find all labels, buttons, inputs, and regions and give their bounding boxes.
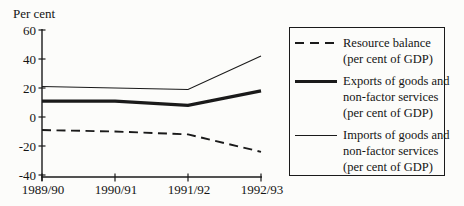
- thin-line-sample-icon: [295, 135, 337, 136]
- series-line-dashed: [42, 130, 261, 152]
- legend-label-resource-balance: Resource balance (per cent of GDP): [343, 35, 433, 67]
- legend: Resource balance (per cent of GDP) Expor…: [289, 27, 445, 176]
- legend-text-line: non-factor services: [343, 89, 450, 105]
- legend-item-resource-balance: Resource balance (per cent of GDP): [295, 35, 442, 67]
- y-tick-label: 20: [23, 81, 36, 96]
- legend-text-line: Exports of goods and: [343, 73, 450, 89]
- line-chart: 6040200-20-401989/901990/911991/921992/9…: [0, 0, 290, 206]
- series-line-solid-thin: [42, 56, 261, 89]
- y-axis-title: Per cent: [13, 6, 56, 21]
- y-tick-label: 0: [30, 110, 37, 125]
- legend-text-line: Imports of goods and: [343, 127, 450, 143]
- y-tick-label: -40: [19, 168, 36, 183]
- y-tick-label: -20: [19, 139, 36, 154]
- legend-label-exports: Exports of goods and non-factor services…: [343, 73, 450, 121]
- y-tick-label: 60: [23, 23, 36, 38]
- x-tick-label: 1990/91: [95, 182, 138, 197]
- chart-figure: 6040200-20-401989/901990/911991/921992/9…: [0, 0, 464, 206]
- x-tick-label: 1992/93: [241, 182, 284, 197]
- x-tick-label: 1989/90: [22, 182, 65, 197]
- dashed-line-sample-icon: [295, 42, 337, 44]
- legend-text-line: (per cent of GDP): [343, 51, 433, 67]
- series-line-solid-thick: [42, 91, 261, 106]
- x-tick-label: 1991/92: [168, 182, 211, 197]
- legend-item-imports: Imports of goods and non-factor services…: [295, 127, 442, 175]
- legend-text-line: (per cent of GDP): [343, 105, 450, 121]
- thick-line-sample-icon: [295, 80, 337, 83]
- y-tick-label: 40: [23, 52, 36, 67]
- legend-label-imports: Imports of goods and non-factor services…: [343, 127, 450, 175]
- legend-text-line: (per cent of GDP): [343, 159, 450, 175]
- legend-text-line: Resource balance: [343, 35, 433, 51]
- legend-text-line: non-factor services: [343, 143, 450, 159]
- legend-item-exports: Exports of goods and non-factor services…: [295, 73, 442, 121]
